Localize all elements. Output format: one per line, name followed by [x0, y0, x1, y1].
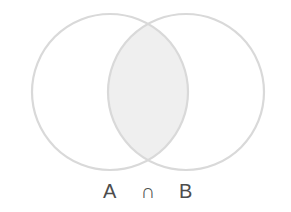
venn-diagram-figure: A ∩ B: [0, 0, 291, 212]
intersection-operator-symbol: ∩: [141, 180, 156, 202]
set-label-b: B: [179, 180, 193, 202]
set-label-a: A: [103, 180, 117, 202]
venn-caption: A ∩ B: [103, 180, 193, 202]
venn-diagram-canvas: A ∩ B: [0, 0, 291, 212]
